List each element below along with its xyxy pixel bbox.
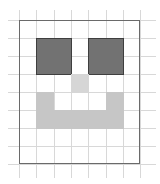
grid-line-horizontal: [8, 164, 156, 165]
grid-line-vertical: [140, 10, 141, 178]
grid-frame: [19, 20, 140, 164]
